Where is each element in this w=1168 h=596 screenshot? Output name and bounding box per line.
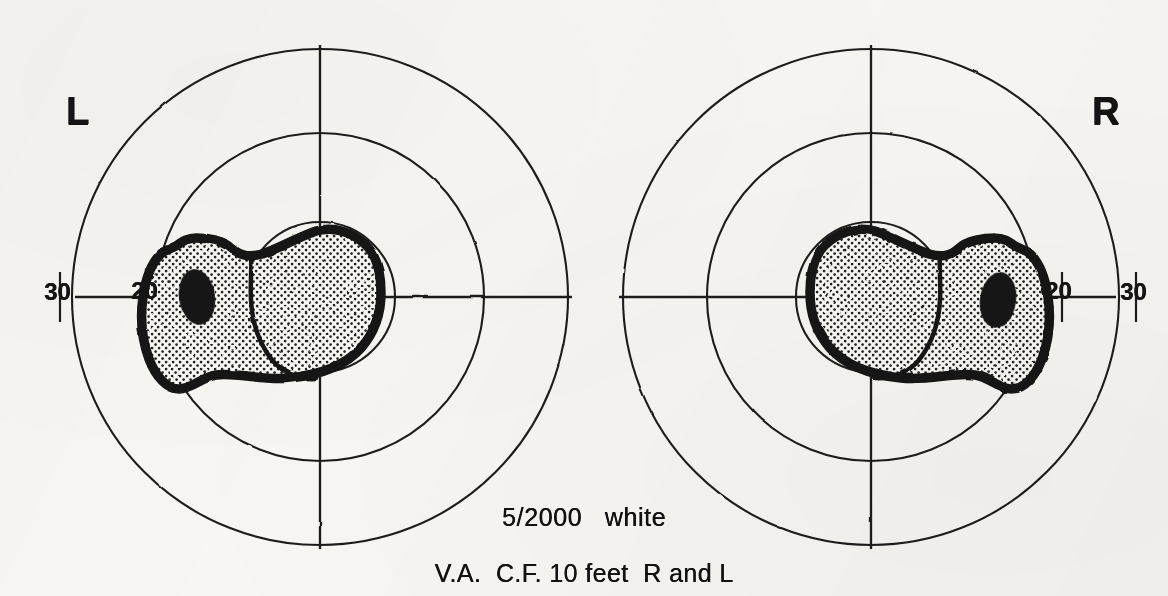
isopter-left-eye <box>142 229 381 389</box>
tick-label-left-30: 30 <box>44 278 71 306</box>
acuity-caption: V.A. C.F. 10 feet R and L <box>0 559 1168 588</box>
eye-label-right: R <box>1092 92 1120 130</box>
tick-label-right-20: 20 <box>1045 277 1072 305</box>
stimulus-caption: 5/2000 white <box>0 503 1168 532</box>
tick-label-left-20: 20 <box>131 277 158 305</box>
eye-label-left: L <box>66 92 90 130</box>
visual-field-chart-page: L R 30 20 20 30 5/2000 white V.A. C.F. 1… <box>0 0 1168 596</box>
tick-label-right-30: 30 <box>1120 278 1147 306</box>
